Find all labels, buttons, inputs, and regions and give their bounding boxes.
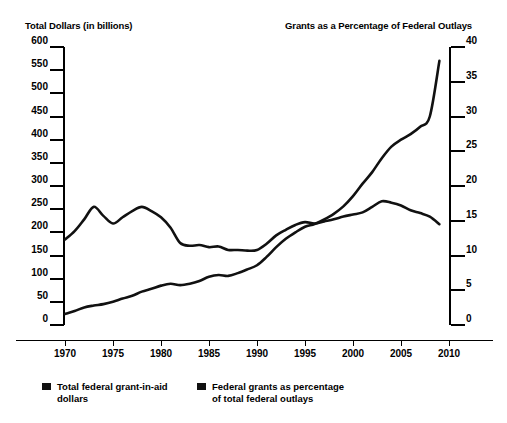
scrollbar-track[interactable] [493, 0, 507, 423]
legend-item-percentage: Federal grants as percentage of total fe… [197, 381, 344, 405]
legend-label: Total federal grant-in-aid dollars [57, 381, 168, 405]
chart-page: Total Dollars (in billions) Grants as a … [0, 0, 507, 423]
legend-swatch-icon [42, 383, 51, 390]
legend-item-dollars: Total federal grant-in-aid dollars [42, 381, 168, 405]
legend-label: Federal grants as percentage of total fe… [212, 381, 344, 405]
series-line-dollars [65, 61, 439, 314]
chart-plot-area [0, 0, 507, 423]
legend-swatch-icon [197, 383, 206, 390]
series-line-percentage [65, 201, 439, 251]
